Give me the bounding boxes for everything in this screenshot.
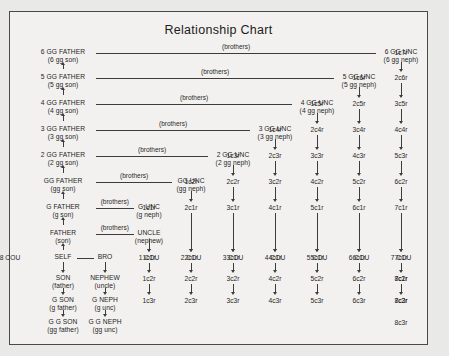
grid-arrow bbox=[273, 173, 277, 176]
removed-cell-8-6: 5c1r bbox=[310, 254, 323, 261]
lower-grid-link bbox=[191, 284, 192, 292]
grid-arrow bbox=[399, 173, 403, 176]
ancestor-link-4 bbox=[63, 142, 64, 147]
descendant-arrow-2 bbox=[61, 314, 65, 317]
lower-grid-arrow bbox=[399, 292, 403, 295]
lower-grid-link bbox=[359, 263, 360, 270]
removed-cell-9-6: 5c2r bbox=[310, 275, 323, 282]
lower-grid-arrow bbox=[231, 292, 235, 295]
brothers-label-7: (brothers) bbox=[101, 224, 129, 231]
brothers-label-0: (brothers) bbox=[222, 43, 250, 50]
lower-grid-arrow bbox=[189, 249, 193, 252]
cousin8-cell-1: 8c2r bbox=[394, 297, 407, 304]
lower-grid-arrow bbox=[147, 292, 151, 295]
removed-cell-5-6: 4c2r bbox=[310, 178, 323, 185]
lower-grid-link bbox=[275, 284, 276, 292]
ancestor-7-main: FATHER bbox=[50, 229, 76, 236]
cousin-header-7: 8 COU bbox=[0, 254, 20, 261]
grid-arrow bbox=[189, 199, 193, 202]
cousin8-cell-0: 8c1r bbox=[394, 275, 407, 282]
bro-node-main: BRO bbox=[98, 253, 113, 260]
chart-frame: Relationship Chart 6 GG FATHER(6 gg son)… bbox=[9, 11, 428, 345]
ancestor-0-main: 6 GG FATHER bbox=[41, 48, 85, 55]
bro-node: BRO bbox=[98, 253, 113, 261]
nephew-0-main: NEPHEW bbox=[90, 274, 120, 281]
removed-cell-9-5: 4c2r bbox=[268, 275, 281, 282]
lower-grid-link bbox=[317, 239, 318, 249]
grid-link bbox=[359, 187, 360, 199]
lower-grid-link bbox=[317, 284, 318, 292]
self-node: SELF bbox=[55, 253, 72, 261]
removed-cell-4-6: 3c3r bbox=[310, 152, 323, 159]
grid-arrow bbox=[357, 121, 361, 124]
removed-cell-9-4: 3c2r bbox=[226, 275, 239, 282]
grid-link bbox=[401, 187, 402, 199]
nephew-2-sub: (gg unc) bbox=[88, 326, 121, 334]
brothers-line-5 bbox=[96, 182, 172, 183]
ancestor-link-1 bbox=[63, 65, 64, 69]
grid-arrow bbox=[357, 173, 361, 176]
grid-link bbox=[317, 187, 318, 199]
nephew-arrow-0 bbox=[103, 270, 107, 273]
ancestor-link-2 bbox=[63, 90, 64, 95]
grid-arrow bbox=[315, 173, 319, 176]
grid-arrow bbox=[399, 147, 403, 150]
lower-grid-arrow bbox=[231, 249, 235, 252]
removed-cell-10-5: 4c3r bbox=[268, 297, 281, 304]
removed-cell-0-8: 1c7r bbox=[394, 49, 407, 56]
removed-cell-6-4: 3c1r bbox=[226, 204, 239, 211]
brothers-label-3: (brothers) bbox=[159, 120, 187, 127]
removed-cell-8-8: 7c1r bbox=[394, 254, 407, 261]
removed-cell-6-2: 1c1r bbox=[142, 204, 155, 211]
descendant-arrow-1 bbox=[61, 292, 65, 295]
descendant-0-main: SON bbox=[56, 274, 71, 281]
ancestor-5-main: GG FATHER bbox=[44, 177, 83, 184]
lower-grid-link bbox=[149, 284, 150, 292]
lower-grid-arrow bbox=[399, 249, 403, 252]
brothers-line-4 bbox=[96, 156, 208, 157]
father-self-link bbox=[63, 246, 64, 250]
lower-grid-link bbox=[359, 239, 360, 249]
lower-grid-arrow bbox=[231, 270, 235, 273]
lower-grid-link bbox=[233, 263, 234, 270]
brothers-line-3 bbox=[96, 130, 250, 131]
removed-cell-5-3: 1c2r bbox=[184, 178, 197, 185]
descendant-arrow-0 bbox=[61, 270, 65, 273]
nephew-arrow-1 bbox=[103, 292, 107, 295]
ancestor-arrow-5 bbox=[61, 165, 65, 168]
lower-grid-link bbox=[401, 239, 402, 249]
removed-cell-10-6: 5c3r bbox=[310, 297, 323, 304]
removed-cell-10-3: 2c3r bbox=[184, 297, 197, 304]
removed-cell-9-2: 1c2r bbox=[142, 275, 155, 282]
grid-arrow bbox=[357, 147, 361, 150]
grid-arrow bbox=[399, 121, 403, 124]
removed-cell-10-2: 1c3r bbox=[142, 297, 155, 304]
ancestor-arrow-6 bbox=[61, 191, 65, 194]
removed-cell-5-4: 2c2r bbox=[226, 178, 239, 185]
removed-cell-6-3: 2c1r bbox=[184, 204, 197, 211]
removed-cell-8-5: 4c1r bbox=[268, 254, 281, 261]
removed-cell-5-5: 3c2r bbox=[268, 178, 281, 185]
lower-grid-arrow bbox=[357, 249, 361, 252]
brothers-label-6: (brothers) bbox=[101, 198, 129, 205]
grid-link bbox=[317, 161, 318, 173]
lower-grid-link bbox=[401, 284, 402, 292]
removed-cell-10-4: 3c3r bbox=[226, 297, 239, 304]
removed-cell-8-2: 1c1r bbox=[142, 254, 155, 261]
lower-grid-arrow bbox=[273, 270, 277, 273]
lower-grid-link bbox=[275, 263, 276, 270]
ancestor-arrow-7 bbox=[61, 217, 65, 220]
nephew-1-main: G NEPH bbox=[92, 296, 118, 303]
grid-arrow bbox=[399, 69, 403, 72]
removed-cell-3-8: 4c4r bbox=[394, 126, 407, 133]
lower-grid-link bbox=[191, 239, 192, 249]
ancestor-6-main: G FATHER bbox=[46, 203, 79, 210]
removed-cell-2-7: 2c5r bbox=[352, 100, 365, 107]
ancestor-arrow-1 bbox=[61, 62, 65, 65]
grid-link bbox=[401, 161, 402, 173]
grid-arrow bbox=[399, 199, 403, 202]
grid-arrow bbox=[315, 121, 319, 124]
cousin8-cell-2: 8c3r bbox=[394, 319, 407, 326]
grid-link bbox=[275, 161, 276, 173]
grid-link bbox=[275, 139, 276, 147]
